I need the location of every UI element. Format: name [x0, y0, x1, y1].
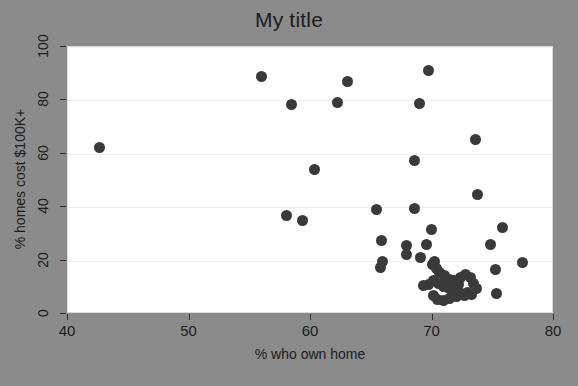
chart-title: My title: [0, 8, 578, 32]
x-axis-tick: [310, 314, 311, 320]
y-axis-tick: [60, 46, 66, 47]
data-point: [371, 204, 382, 215]
y-axis-tick: [60, 206, 66, 207]
data-point: [517, 257, 528, 268]
gridline-horizontal: [68, 154, 552, 155]
x-axis-tick: [553, 314, 554, 320]
y-axis-tick: [60, 153, 66, 154]
data-point: [453, 279, 464, 290]
x-axis-tick: [67, 314, 68, 320]
data-point: [375, 262, 386, 273]
x-axis-tick-label: 80: [533, 322, 573, 339]
data-point: [490, 264, 501, 275]
data-point: [281, 210, 292, 221]
data-point: [421, 239, 432, 250]
y-axis-tick-label: 80: [35, 82, 51, 116]
x-axis-tick-label: 70: [412, 322, 452, 339]
gridline-horizontal: [68, 261, 552, 262]
data-point: [415, 252, 426, 263]
data-point: [497, 222, 508, 233]
data-point: [466, 289, 477, 300]
data-point: [414, 98, 425, 109]
data-point: [401, 249, 412, 260]
y-axis-title-label: % homes cost $100K+: [12, 107, 28, 251]
data-point: [491, 288, 502, 299]
data-point: [342, 76, 353, 87]
y-axis-tick: [60, 313, 66, 314]
gridline-horizontal: [68, 47, 552, 48]
x-axis-tick: [432, 314, 433, 320]
y-axis-tick: [60, 99, 66, 100]
data-point: [426, 224, 437, 235]
data-point: [94, 142, 105, 153]
y-axis-tick-label: 100: [35, 29, 51, 63]
data-point: [472, 189, 483, 200]
data-point: [309, 164, 320, 175]
data-point: [423, 65, 434, 76]
gridline-horizontal: [68, 207, 552, 208]
scatter-plot-figure: My title 020406080100 4050607080 % homes…: [0, 0, 578, 386]
y-axis-title: % homes cost $100K+: [10, 46, 30, 313]
data-point: [470, 134, 481, 145]
data-point: [297, 215, 308, 226]
data-point: [409, 155, 420, 166]
data-point: [409, 203, 420, 214]
gridline-horizontal: [68, 100, 552, 101]
y-axis-tick-label: 60: [35, 136, 51, 170]
y-axis-tick-label: 20: [35, 243, 51, 277]
x-axis-title-label: % who own home: [67, 346, 553, 362]
x-axis-tick-label: 40: [47, 322, 87, 339]
y-axis-tick-label: 40: [35, 189, 51, 223]
x-axis-tick-label: 50: [169, 322, 209, 339]
data-point: [376, 235, 387, 246]
data-point: [442, 279, 453, 290]
y-axis-tick: [60, 260, 66, 261]
data-point: [256, 71, 267, 82]
data-point: [332, 97, 343, 108]
data-point: [286, 99, 297, 110]
x-axis-tick: [189, 314, 190, 320]
x-axis-tick-label: 60: [290, 322, 330, 339]
plot-panel: [67, 46, 553, 313]
data-point: [485, 239, 496, 250]
